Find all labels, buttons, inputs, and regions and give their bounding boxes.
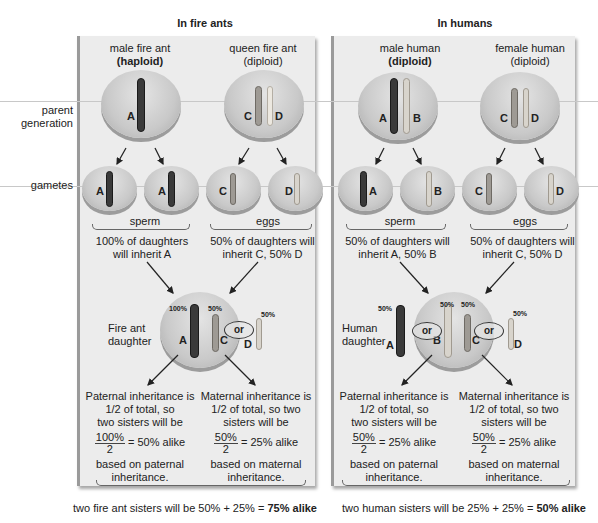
flow-arrows	[0, 0, 598, 523]
